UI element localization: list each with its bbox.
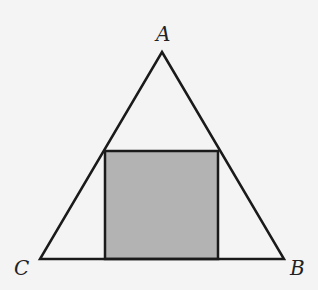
triangle-diagram: A C B (0, 0, 318, 290)
vertex-label-c: C (14, 256, 29, 280)
vertex-label-b: B (289, 256, 305, 280)
inscribed-square (105, 151, 218, 259)
vertex-label-a: A (154, 22, 170, 46)
